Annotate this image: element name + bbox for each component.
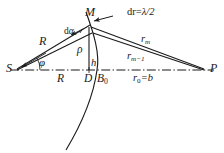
label-d-alpha: dα — [64, 27, 74, 37]
label-dr-value: λ/2 — [142, 6, 155, 17]
fresnel-zone-diagram: M dr=λ/2 R dα ρ φ S P h R D B0 rm rm−1 r… — [0, 0, 224, 153]
diagram-canvas — [0, 0, 224, 153]
label-rho: ρ — [77, 44, 83, 56]
label-rm1-sub: m−1 — [131, 55, 145, 63]
label-r0-tail: =b — [141, 72, 153, 83]
label-phi: φ — [39, 57, 45, 68]
arrow-dr-leader — [94, 16, 113, 21]
label-rm: rm — [141, 34, 150, 46]
label-dr-equation: dr=λ/2 — [127, 7, 154, 18]
label-dr-head: dr= — [127, 6, 142, 17]
label-B0-base: B — [97, 72, 104, 84]
label-rm-1: rm−1 — [127, 51, 145, 63]
label-rm-sub: m — [145, 38, 150, 46]
label-r0-equals-b: r0=b — [133, 73, 153, 85]
label-B0: B0 — [97, 73, 108, 86]
label-D: D — [84, 73, 92, 85]
label-R-lower: R — [57, 73, 64, 85]
label-S: S — [6, 62, 12, 74]
label-B0-sub: 0 — [104, 77, 108, 86]
label-M: M — [85, 6, 95, 18]
label-h: h — [91, 58, 96, 69]
label-P: P — [210, 62, 217, 74]
label-d-alpha-a: α — [69, 26, 74, 36]
label-R-upper: R — [39, 35, 46, 47]
